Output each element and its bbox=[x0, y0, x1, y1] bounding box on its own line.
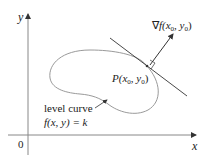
point-p bbox=[146, 65, 149, 68]
point-label: P(x0, y0) bbox=[111, 72, 149, 86]
level-curve-gradient-diagram: x y 0 ∇f(x0, y0) P(x0, y0) level curve f… bbox=[0, 0, 211, 167]
tangent-line bbox=[110, 38, 187, 96]
gradient-vector-arrow bbox=[150, 34, 173, 65]
x-axis-label: x bbox=[191, 139, 198, 153]
origin-label: 0 bbox=[18, 138, 24, 150]
gradient-label: ∇f(x0, y0) bbox=[151, 19, 192, 33]
curve-label-pointer-arrow bbox=[95, 100, 107, 108]
curve-label-line2: f(x, y) = k bbox=[44, 116, 89, 129]
y-axis-label: y bbox=[17, 10, 24, 24]
curve-label-line1: level curve bbox=[44, 102, 93, 114]
